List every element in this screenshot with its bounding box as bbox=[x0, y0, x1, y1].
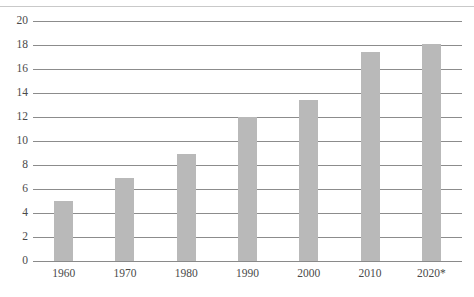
plot-area bbox=[33, 21, 462, 261]
y-axis-tick-label: 20 bbox=[2, 15, 28, 27]
bar-chart-figure: 20181614121086420 1960197019801990200020… bbox=[0, 0, 474, 297]
bar-2020 bbox=[422, 44, 441, 261]
x-axis-tick-label: 2000 bbox=[274, 268, 344, 280]
y-axis-tick-label: 14 bbox=[2, 87, 28, 99]
x-axis-tick-label: 1980 bbox=[151, 268, 221, 280]
y-axis-tick-label: 10 bbox=[2, 135, 28, 147]
gridline bbox=[33, 21, 462, 22]
bar-1960 bbox=[54, 201, 73, 261]
x-axis-tick-label: 1990 bbox=[213, 268, 283, 280]
y-axis-tick-label: 16 bbox=[2, 63, 28, 75]
x-axis-tick-label: 1970 bbox=[90, 268, 160, 280]
top-divider-rule bbox=[0, 6, 474, 7]
x-axis-tick-label: 1960 bbox=[29, 268, 99, 280]
x-axis-tick-label: 2010 bbox=[335, 268, 405, 280]
bar-1970 bbox=[115, 178, 134, 261]
y-axis-tick-label: 8 bbox=[2, 159, 28, 171]
bar-2000 bbox=[299, 100, 318, 261]
axis-baseline bbox=[33, 261, 462, 262]
y-axis-tick-label: 12 bbox=[2, 111, 28, 123]
y-axis-tick-label: 18 bbox=[2, 39, 28, 51]
x-axis-tick-label: 2020* bbox=[396, 268, 466, 280]
y-axis-tick-label: 4 bbox=[2, 207, 28, 219]
gridline bbox=[33, 93, 462, 94]
bar-1990 bbox=[238, 117, 257, 261]
y-axis-tick-labels: 20181614121086420 bbox=[0, 21, 28, 261]
y-axis-tick-label: 0 bbox=[2, 255, 28, 267]
y-axis-tick-label: 2 bbox=[2, 231, 28, 243]
gridline bbox=[33, 69, 462, 70]
bar-2010 bbox=[361, 52, 380, 261]
bar-1980 bbox=[177, 154, 196, 261]
gridline bbox=[33, 45, 462, 46]
y-axis-tick-label: 6 bbox=[2, 183, 28, 195]
